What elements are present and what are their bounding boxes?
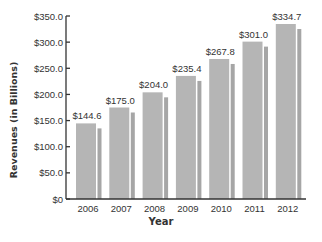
y-tick-label: $50.0	[39, 167, 63, 178]
x-tick-label: 2011	[244, 203, 264, 214]
bar-shadow	[197, 81, 201, 199]
x-tick-label: 2008	[144, 203, 165, 214]
y-tick-label: $150.0	[34, 115, 63, 126]
x-axis-title: Year	[0, 216, 322, 227]
bar-shadow	[264, 47, 268, 199]
bar	[143, 92, 163, 199]
x-tick-label: 2012	[277, 203, 298, 214]
y-tick-label: $300.0	[34, 37, 63, 48]
y-tick-label: $200.0	[34, 89, 63, 100]
data-label: $301.0	[239, 29, 268, 40]
y-tick-label: $100.0	[34, 141, 63, 152]
bar	[209, 59, 229, 199]
bar-shadow	[98, 128, 102, 199]
data-label: $175.0	[106, 95, 135, 106]
bar	[276, 24, 296, 199]
y-tick-label: $0	[52, 194, 63, 205]
y-tick-label: $250.0	[34, 63, 63, 74]
bar-shadow	[231, 64, 235, 199]
bar	[109, 108, 129, 200]
data-label: $267.8	[206, 46, 235, 57]
data-label: $144.6	[72, 110, 101, 121]
data-label: $204.0	[139, 79, 168, 90]
bar-chart: $144.62006$175.02007$204.02008$235.42009…	[0, 0, 322, 242]
bar-shadow	[297, 29, 301, 199]
bar-shadow	[131, 113, 135, 200]
data-label: $334.7	[272, 11, 301, 22]
bar-shadow	[164, 97, 168, 199]
y-tick-label: $350.0	[34, 11, 63, 22]
bar	[176, 76, 196, 199]
bar	[243, 42, 263, 199]
data-label: $235.4	[172, 63, 201, 74]
x-tick-label: 2007	[111, 203, 132, 214]
x-tick-label: 2010	[211, 203, 232, 214]
y-axis-title: Revenues (in Billions)	[2, 40, 24, 200]
x-tick-label: 2009	[177, 203, 198, 214]
x-tick-label: 2006	[77, 203, 98, 214]
bar	[76, 123, 96, 199]
